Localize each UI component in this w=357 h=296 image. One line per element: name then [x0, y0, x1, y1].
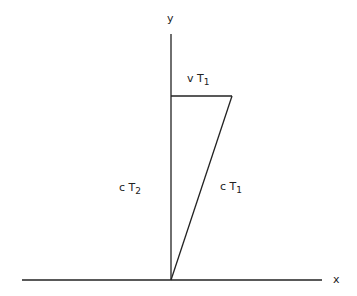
label-vt1-sub: 1 — [204, 77, 210, 87]
label-ct1-var: c T — [220, 180, 236, 193]
label-ct2-sub: 2 — [135, 186, 141, 196]
label-ct1-sub: 1 — [236, 185, 242, 195]
label-ct2: c T2 — [119, 181, 141, 196]
label-vt1: v T1 — [187, 72, 209, 87]
label-ct2-var: c T — [119, 181, 135, 194]
label-vt1-var: v T — [187, 72, 204, 85]
x-axis-label: x — [333, 273, 340, 286]
label-ct1: c T1 — [220, 180, 242, 195]
y-axis-label: y — [167, 12, 174, 25]
diagram-canvas — [0, 0, 357, 296]
